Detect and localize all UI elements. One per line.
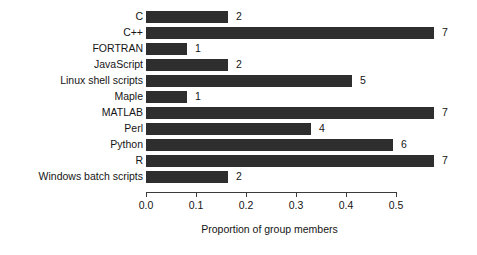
bar-value-label: 2 bbox=[236, 10, 242, 24]
category-label: MATLAB bbox=[0, 105, 143, 122]
bar-value-label: 6 bbox=[401, 138, 407, 152]
bar-track bbox=[146, 107, 434, 119]
bar-chart: C2C++7FORTRAN1JavaScript2Linux shell scr… bbox=[0, 0, 477, 255]
bar-value-label: 7 bbox=[442, 154, 448, 168]
bar-track bbox=[146, 11, 228, 23]
x-tick-label: 0.3 bbox=[276, 199, 316, 211]
category-label: Linux shell scripts bbox=[0, 73, 143, 90]
bar-track bbox=[146, 139, 393, 151]
bar-row: MATLAB7 bbox=[0, 105, 477, 121]
bar-row: C2 bbox=[0, 9, 477, 25]
bar bbox=[146, 107, 434, 119]
category-label: Maple bbox=[0, 89, 143, 106]
bar bbox=[146, 123, 311, 135]
bar-value-label: 5 bbox=[360, 74, 366, 88]
bar bbox=[146, 11, 228, 23]
category-label: Perl bbox=[0, 121, 143, 138]
bar-track bbox=[146, 171, 228, 183]
bar-track bbox=[146, 155, 434, 167]
bar-row: Linux shell scripts5 bbox=[0, 73, 477, 89]
bar bbox=[146, 43, 187, 55]
category-label: FORTRAN bbox=[0, 41, 143, 58]
bar bbox=[146, 91, 187, 103]
bar bbox=[146, 139, 393, 151]
bar-value-label: 7 bbox=[442, 26, 448, 40]
bar-track bbox=[146, 91, 187, 103]
category-label: Windows batch scripts bbox=[0, 169, 143, 186]
bar-row: Python6 bbox=[0, 137, 477, 153]
bar-row: C++7 bbox=[0, 25, 477, 41]
x-tick bbox=[196, 192, 197, 197]
bar-value-label: 2 bbox=[236, 58, 242, 72]
bar-row: R7 bbox=[0, 153, 477, 169]
x-tick-label: 0.5 bbox=[376, 199, 416, 211]
bar bbox=[146, 59, 228, 71]
bar-value-label: 1 bbox=[195, 42, 201, 56]
x-tick bbox=[146, 192, 147, 197]
category-label: JavaScript bbox=[0, 57, 143, 74]
bar bbox=[146, 75, 352, 87]
x-tick bbox=[246, 192, 247, 197]
x-tick-label: 0.1 bbox=[176, 199, 216, 211]
bar-track bbox=[146, 43, 187, 55]
bar-row: JavaScript2 bbox=[0, 57, 477, 73]
bar-row: Windows batch scripts2 bbox=[0, 169, 477, 185]
bar-track bbox=[146, 75, 352, 87]
bar-value-label: 4 bbox=[319, 122, 325, 136]
bar-value-label: 1 bbox=[195, 90, 201, 104]
x-axis-line bbox=[146, 192, 396, 193]
bar-row: Maple1 bbox=[0, 89, 477, 105]
bar-row: Perl4 bbox=[0, 121, 477, 137]
bar bbox=[146, 171, 228, 183]
x-tick bbox=[396, 192, 397, 197]
x-tick bbox=[296, 192, 297, 197]
x-tick-label: 0.4 bbox=[326, 199, 366, 211]
bar-value-label: 7 bbox=[442, 106, 448, 120]
bar bbox=[146, 27, 434, 39]
bar bbox=[146, 155, 434, 167]
x-tick-label: 0.2 bbox=[226, 199, 266, 211]
x-tick-label: 0.0 bbox=[126, 199, 166, 211]
bar-track bbox=[146, 27, 434, 39]
bar-value-label: 2 bbox=[236, 170, 242, 184]
category-label: C++ bbox=[0, 25, 143, 42]
category-label: Python bbox=[0, 137, 143, 154]
bar-track bbox=[146, 123, 311, 135]
bar-track bbox=[146, 59, 228, 71]
x-axis-title: Proportion of group members bbox=[0, 223, 477, 235]
x-tick bbox=[346, 192, 347, 197]
category-label: C bbox=[0, 9, 143, 26]
bar-row: FORTRAN1 bbox=[0, 41, 477, 57]
category-label: R bbox=[0, 153, 143, 170]
